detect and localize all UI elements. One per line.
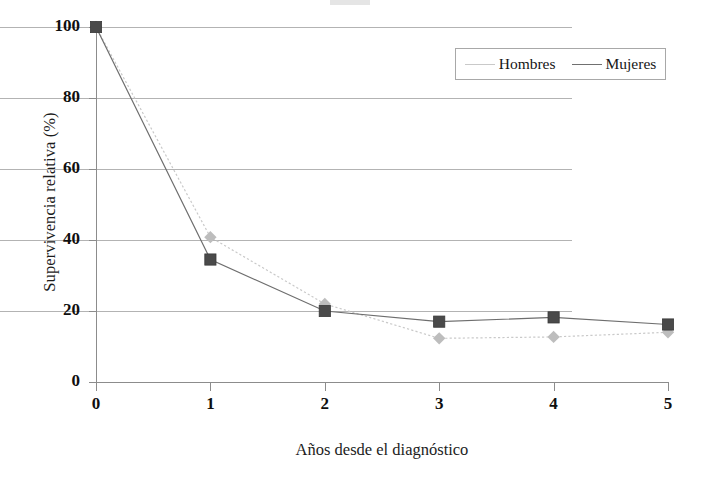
data-point-marker (434, 316, 445, 327)
legend-item-hombres: Hombres (465, 55, 556, 73)
data-point-marker (90, 21, 101, 32)
data-point-marker (433, 332, 445, 344)
legend-swatch-mujeres (572, 58, 602, 70)
data-point-marker (547, 331, 559, 343)
data-point-marker (204, 231, 216, 243)
legend-label-mujeres: Mujeres (606, 55, 657, 73)
legend-item-mujeres: Mujeres (572, 55, 657, 73)
data-point-marker (319, 305, 330, 316)
survival-line-chart: Supervivencia relativa (%) Años desde el… (0, 0, 701, 482)
data-point-marker (205, 254, 216, 265)
legend-swatch-hombres (465, 58, 495, 70)
chart-legend: Hombres Mujeres (455, 48, 666, 80)
data-point-marker (548, 312, 559, 323)
legend-label-hombres: Hombres (499, 55, 556, 73)
data-point-marker (662, 319, 673, 330)
